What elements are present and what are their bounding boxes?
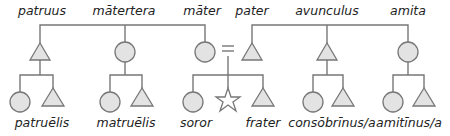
frater-triangle-icon: [252, 88, 274, 106]
amita-circle-icon: [398, 42, 418, 62]
patruelis-female-circle-icon: [10, 92, 30, 112]
patruus-triangle-icon: [30, 43, 50, 60]
right-sibling-line: [252, 25, 408, 43]
consobrina-circle-icon: [303, 92, 323, 112]
label-pater: pater: [235, 5, 268, 18]
label-matertera: mātertera: [93, 5, 156, 18]
label-matruelis: matruēlis: [97, 117, 156, 130]
patruelis-male-triangle-icon: [42, 88, 64, 106]
matertera-circle-icon: [115, 42, 135, 62]
label-avunculus: avunculus: [295, 5, 359, 18]
soror-circle-icon: [183, 92, 203, 112]
pater-triangle-icon: [242, 43, 262, 60]
ego-star-icon: [216, 88, 240, 111]
label-mater: māter: [183, 5, 221, 18]
label-amitinus: amitīnus/a: [376, 117, 442, 130]
label-amita: amita: [390, 5, 426, 18]
left-sibling-line: [40, 25, 205, 43]
label-patruus: patruus: [18, 5, 66, 18]
amitinus-triangle-icon: [413, 88, 435, 106]
matruelis-female-circle-icon: [100, 92, 120, 112]
mater-circle-icon: [195, 42, 215, 62]
matruelis-male-triangle-icon: [131, 88, 153, 106]
label-consobrinus: consōbrīnus/a: [288, 117, 375, 130]
label-frater: frater: [246, 117, 281, 130]
label-patruelis: patruēlis: [15, 117, 70, 130]
label-soror: soror: [180, 117, 212, 130]
avunculus-triangle-icon: [317, 43, 337, 60]
consobrinus-triangle-icon: [332, 88, 354, 106]
amitina-circle-icon: [383, 92, 403, 112]
